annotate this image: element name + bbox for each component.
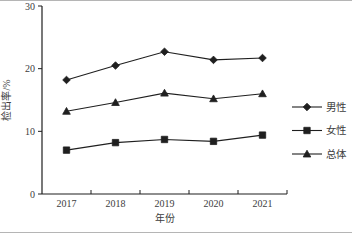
data-point-总体-2021 xyxy=(259,90,267,97)
legend-label-男性: 男性 xyxy=(326,101,346,113)
data-point-总体-2019 xyxy=(161,89,169,96)
data-point-男性-2019 xyxy=(161,48,169,56)
data-point-男性-2018 xyxy=(112,62,120,70)
x-tick-label: 2020 xyxy=(204,198,224,209)
y-axis-title: 检出率/% xyxy=(0,79,12,120)
data-point-女性-2020 xyxy=(210,138,216,144)
data-point-女性-2021 xyxy=(259,132,265,138)
line-chart-figure: 010203020172018201920202021年份检出率/%男性女性总体 xyxy=(0,0,352,233)
legend-marker-男性 xyxy=(303,103,311,111)
x-axis-title: 年份 xyxy=(155,212,175,224)
line-chart: 010203020172018201920202021年份检出率/%男性女性总体 xyxy=(0,1,352,233)
legend-label-总体: 总体 xyxy=(326,148,347,160)
y-tick-label: 10 xyxy=(25,126,35,137)
y-tick-label: 30 xyxy=(25,1,35,12)
x-tick-label: 2018 xyxy=(106,198,126,209)
y-tick-label: 0 xyxy=(30,189,35,200)
data-point-女性-2019 xyxy=(161,136,167,142)
data-point-男性-2020 xyxy=(210,56,218,64)
x-tick-label: 2021 xyxy=(253,198,273,209)
x-tick-label: 2019 xyxy=(155,198,175,209)
data-point-男性-2021 xyxy=(259,54,267,62)
y-tick-label: 20 xyxy=(25,63,35,74)
x-tick-label: 2017 xyxy=(57,198,77,209)
data-point-男性-2017 xyxy=(63,76,71,84)
data-point-女性-2018 xyxy=(112,139,118,145)
legend-marker-女性 xyxy=(304,127,310,133)
legend-label-女性: 女性 xyxy=(326,124,346,136)
data-point-女性-2017 xyxy=(63,147,69,153)
